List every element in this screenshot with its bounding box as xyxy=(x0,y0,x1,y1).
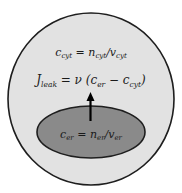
cell-diagram: ccyt = ncyt/vcyt Jleak = ν (cer − ccyt) … xyxy=(0,0,182,193)
diagram-canvas: ccyt = ncyt/vcyt Jleak = ν (cer − ccyt) … xyxy=(0,0,182,193)
